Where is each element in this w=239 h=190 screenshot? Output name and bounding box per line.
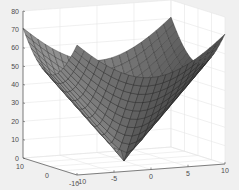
z-tick-label: 30 bbox=[11, 99, 19, 106]
x-tick-label: -10 bbox=[76, 178, 86, 185]
x-tick-label: -5 bbox=[111, 175, 117, 182]
surface-plot: 01020304050607080100-10-10-50510 bbox=[0, 0, 239, 190]
y-tick-label: 0 bbox=[45, 172, 49, 179]
x-tick-label: 5 bbox=[186, 170, 190, 177]
x-tick-label: 0 bbox=[149, 173, 153, 180]
z-tick-label: 20 bbox=[11, 118, 19, 125]
z-tick-label: 40 bbox=[11, 81, 19, 88]
z-tick-label: 60 bbox=[11, 44, 19, 51]
z-tick-label: 80 bbox=[11, 8, 19, 15]
figure: 01020304050607080100-10-10-50510 bbox=[0, 0, 239, 190]
x-tick-label: 10 bbox=[221, 167, 229, 174]
z-tick-label: 0 bbox=[15, 155, 19, 162]
z-tick-label: 10 bbox=[11, 136, 19, 143]
z-tick-label: 70 bbox=[11, 26, 19, 33]
y-tick-label: 10 bbox=[16, 163, 24, 170]
z-tick-label: 50 bbox=[11, 63, 19, 70]
